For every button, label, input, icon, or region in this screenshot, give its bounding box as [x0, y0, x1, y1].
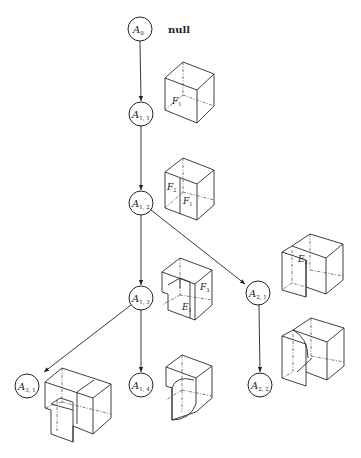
shape-a1-2-cube: F2 F1	[165, 158, 214, 220]
node-a1-1: A1, 1	[129, 102, 153, 126]
edge-a0-a11	[140, 41, 141, 101]
node-a2-1: A2, 1	[246, 281, 270, 305]
face-label-f1: F1	[171, 96, 181, 107]
face-label-f3: F3	[199, 282, 209, 293]
shape-a1-4-block	[166, 355, 212, 420]
shape-a2-2-block	[282, 318, 344, 386]
shape-a2-1-block: E2	[282, 234, 343, 297]
edge-a13-a31	[44, 305, 131, 372]
face-label-f1-second: F1	[182, 196, 192, 207]
node-a0: A0	[128, 17, 152, 41]
node-a1-3: A1, 3	[129, 286, 153, 310]
face-label-f2: F2	[166, 182, 176, 193]
node-a1-2: A1, 2	[129, 191, 153, 215]
node-a1-4: A1, 4	[129, 373, 153, 397]
shape-a1-1-cube: F1	[165, 62, 214, 123]
node-a3-1: A3, 1	[15, 374, 39, 398]
null-annotation: null	[168, 24, 190, 35]
shape-a3-1-block	[45, 368, 111, 442]
edge-a21-a22	[259, 305, 260, 372]
search-tree-diagram: A0 null A1, 1 A1, 2 A1, 3 A2, 1 A1, 4 A2…	[0, 0, 361, 458]
node-a2-2: A2, 2	[248, 373, 272, 397]
face-label-e2: E2	[297, 254, 308, 265]
shape-a1-3-block: F3 E1	[162, 258, 212, 320]
